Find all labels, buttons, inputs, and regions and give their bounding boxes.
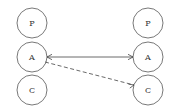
left-column: P A C xyxy=(17,8,47,105)
node-left-c[interactable]: C xyxy=(17,75,47,105)
node-right-c[interactable]: C xyxy=(133,75,163,105)
node-label-left-p: P xyxy=(29,19,35,28)
edge-a-to-c[interactable] xyxy=(45,62,134,88)
node-right-p[interactable]: P xyxy=(133,8,163,38)
node-label-right-c: C xyxy=(145,86,151,95)
diagram-svg: P A C P A C xyxy=(0,0,180,112)
edge-line-dashed[interactable] xyxy=(45,62,134,85)
right-column: P A C xyxy=(133,8,163,105)
node-left-a[interactable]: A xyxy=(17,42,47,72)
node-label-left-c: C xyxy=(29,86,35,95)
diagram-canvas: P A C P A C xyxy=(0,0,180,112)
node-left-p[interactable]: P xyxy=(17,8,47,38)
node-label-right-a: A xyxy=(144,53,151,62)
node-label-left-a: A xyxy=(28,53,35,62)
node-label-right-p: P xyxy=(145,19,151,28)
edge-a-to-a[interactable] xyxy=(47,54,133,59)
node-right-a[interactable]: A xyxy=(133,42,163,72)
